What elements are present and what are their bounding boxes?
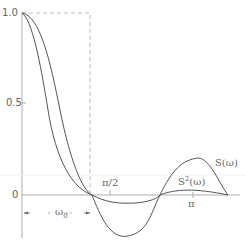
s-curve-label: S(ω) [215, 158, 238, 168]
omega0-subscript: 0 [63, 212, 67, 220]
ideal-response-box [22, 13, 90, 195]
chart-plot [0, 0, 246, 248]
s2-rest: (ω) [189, 176, 205, 187]
chart: 1.0 0.5 0 π/2 π ω0 S(ω) S2(ω) [0, 0, 246, 248]
y-tick-label-05: 0.5 [6, 98, 22, 108]
s2-curve-label: S2(ω) [178, 176, 205, 187]
x-tick-label-pi2: π/2 [102, 178, 118, 188]
arrow-right-icon [86, 212, 90, 215]
x-tick-label-pi: π [188, 199, 195, 209]
omega0-label: ω0 [55, 207, 68, 220]
s2-base: S [178, 176, 185, 187]
y-tick-label-0: 0 [12, 190, 18, 200]
omega0-symbol: ω [55, 206, 63, 217]
arrow-left-icon [24, 212, 28, 215]
y-tick-label-1: 1.0 [2, 8, 18, 18]
